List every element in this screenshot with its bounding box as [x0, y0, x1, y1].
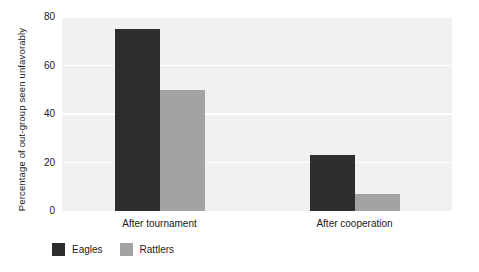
legend-swatch-icon [52, 243, 65, 256]
bar-eagles-1 [310, 155, 355, 211]
y-axis-tick-label: 80 [0, 12, 55, 22]
bar-chart-figure: Percentage of out-group seen unfavorably… [0, 0, 479, 272]
chart-legend: EaglesRattlers [52, 243, 174, 256]
y-axis-tick-label: 40 [0, 109, 55, 119]
gridline [62, 16, 452, 18]
x-axis-tick-label: After cooperation [275, 218, 435, 229]
bar-rattlers-1 [355, 194, 400, 211]
legend-item: Eagles [52, 243, 103, 256]
y-axis-tick-label: 20 [0, 158, 55, 168]
x-axis-tick-label: After tournament [80, 218, 240, 229]
y-axis-tick-labels: 020406080 [0, 0, 57, 272]
legend-item: Rattlers [120, 243, 174, 256]
bar-rattlers-0 [160, 90, 205, 211]
legend-label: Eagles [72, 244, 103, 255]
plot-area [62, 17, 452, 211]
bar-eagles-0 [115, 29, 160, 211]
y-axis-tick-label: 60 [0, 61, 55, 71]
legend-label: Rattlers [140, 244, 174, 255]
legend-swatch-icon [120, 243, 133, 256]
y-axis-tick-label: 0 [0, 206, 55, 216]
